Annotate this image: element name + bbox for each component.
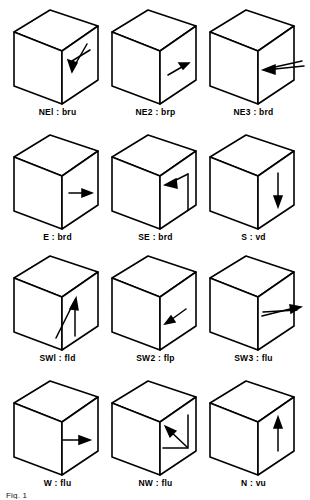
cube-cell-e: E : brd xyxy=(6,133,109,258)
cube-illustration xyxy=(202,8,305,112)
figure-caption-stub: Fig. 1 xyxy=(6,491,66,499)
cube-label-e: E : brd xyxy=(6,232,109,242)
cube-illustration xyxy=(202,133,305,237)
cube-label-sw3: SW3 : flu xyxy=(202,353,305,363)
cube-cell-ne3: NE3 : brd xyxy=(202,8,305,133)
cube-label-se: SE : brd xyxy=(104,232,207,242)
cube-label-ne3: NE3 : brd xyxy=(202,107,305,117)
cube-cell-ne1: NEl : bru xyxy=(6,8,109,133)
cube-illustration xyxy=(104,379,207,483)
cube-cell-s: S : vd xyxy=(202,133,305,258)
cube-label-n: N : vu xyxy=(202,478,305,488)
cube-sw2-svg xyxy=(104,254,207,358)
cube-cell-n: N : vu xyxy=(202,379,305,500)
cube-ne3-svg xyxy=(202,8,305,112)
cube-illustration xyxy=(202,254,305,358)
cube-illustration xyxy=(6,8,109,112)
cube-n-svg xyxy=(202,379,305,483)
cube-cell-sw2: SW2 : flp xyxy=(104,254,207,379)
cube-illustration xyxy=(104,254,207,358)
cube-cell-nw: NW : flu xyxy=(104,379,207,500)
cube-label-sw2: SW2 : flp xyxy=(104,353,207,363)
cube-label-ne1: NEl : bru xyxy=(6,107,109,117)
cube-cell-ne2: NE2 : brp xyxy=(104,8,207,133)
cube-illustration xyxy=(202,379,305,483)
cube-sw1-svg xyxy=(6,254,109,358)
cube-se-svg xyxy=(104,133,207,237)
cube-illustration xyxy=(6,379,109,483)
cube-w-svg xyxy=(6,379,109,483)
cube-cell-se: SE : brd xyxy=(104,133,207,258)
cube-nw-svg xyxy=(104,379,207,483)
cube-ne1-svg xyxy=(6,8,109,112)
cube-illustration xyxy=(6,254,109,358)
cube-cell-w: W : flu xyxy=(6,379,109,500)
cube-illustration xyxy=(104,8,207,112)
cube-cell-sw3: SW3 : flu xyxy=(202,254,305,379)
cube-ne2-svg xyxy=(104,8,207,112)
cube-direction-figure: NEl : bru NE2 : brp xyxy=(0,0,310,500)
cube-s-svg xyxy=(202,133,305,237)
cube-illustration xyxy=(6,133,109,237)
cube-e-svg xyxy=(6,133,109,237)
cube-label-w: W : flu xyxy=(6,478,109,488)
cube-label-ne2: NE2 : brp xyxy=(104,107,207,117)
cube-cell-sw1: SWl : fld xyxy=(6,254,109,379)
cube-label-nw: NW : flu xyxy=(104,478,207,488)
cube-illustration xyxy=(104,133,207,237)
cube-label-s: S : vd xyxy=(202,232,305,242)
cube-label-sw1: SWl : fld xyxy=(6,353,109,363)
cube-sw3-svg xyxy=(202,254,305,358)
